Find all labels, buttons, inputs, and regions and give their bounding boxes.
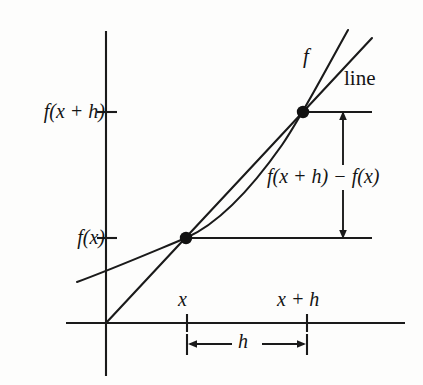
point-x-plus-h-marker <box>297 106 309 118</box>
x-axis-label-x: x <box>178 289 187 309</box>
difference-label: f(x + h) − f(x) <box>267 166 380 186</box>
secant-line-label: line <box>344 68 376 89</box>
y-axis-label-f-x: f(x) <box>77 227 105 247</box>
figure-canvas <box>0 0 423 385</box>
derivative-difference-quotient-figure: f(x + h) f(x) f line f(x + h) − f(x) x x… <box>0 0 423 385</box>
curve-label-f: f <box>303 46 309 67</box>
difference-arrow-upper <box>339 111 347 165</box>
point-x-marker <box>180 232 192 244</box>
h-span-label: h <box>238 331 248 351</box>
y-axis-label-f-x-plus-h: f(x + h) <box>44 101 105 121</box>
difference-arrow-lower <box>339 190 347 239</box>
x-axis-label-x-plus-h: x + h <box>277 289 319 309</box>
